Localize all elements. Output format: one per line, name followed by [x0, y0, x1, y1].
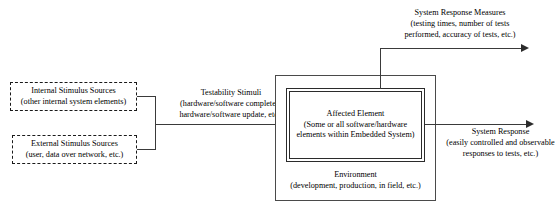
system-response-measures-label: System Response Measures (testing times,… [390, 8, 530, 40]
system-response-line1: System Response [444, 127, 557, 138]
testability-stimuli-line3: hardware/software update, etc.) [170, 110, 292, 121]
affected-element-line3: elements within Embedded System) [296, 130, 414, 141]
testability-context-diagram: Internal Stimulus Sources (other interna… [0, 0, 557, 219]
source-merge-vertical-line [155, 96, 156, 150]
environment-label: Environment (development, production, in… [277, 170, 434, 191]
environment-line2: (development, production, in field, etc.… [277, 181, 434, 192]
response-measures-horizontal-line [380, 48, 523, 49]
testability-stimuli-line1: Testability Stimuli [170, 88, 292, 99]
internal-stimulus-sources-box: Internal Stimulus Sources (other interna… [10, 82, 137, 111]
system-response-measures-line3: performed, accuracy of tests, etc.) [390, 30, 530, 41]
system-response-measures-line1: System Response Measures [390, 8, 530, 19]
response-measures-arrowhead [521, 44, 529, 52]
external-stimulus-sources-line1: External Stimulus Sources [31, 139, 118, 150]
internal-source-connector-line [137, 96, 156, 97]
external-stimulus-sources-line2: (user, data over network, etc.) [26, 150, 124, 161]
testability-stimuli-line2: (hardware/software completed, [170, 99, 292, 110]
testability-stimuli-label: Testability Stimuli (hardware/software c… [170, 88, 292, 120]
environment-line1: Environment [277, 170, 434, 181]
affected-element-line1: Affected Element [327, 109, 385, 120]
system-response-label: System Response (easily controlled and o… [444, 127, 557, 159]
testability-stimuli-line [155, 124, 280, 125]
system-response-line [425, 124, 528, 125]
external-source-connector-line [137, 149, 156, 150]
system-response-line2: (easily controlled and observable [444, 138, 557, 149]
external-stimulus-sources-box: External Stimulus Sources (user, data ov… [12, 135, 137, 164]
system-response-line3: responses to tests, etc.) [444, 149, 557, 160]
affected-element-inner-border: Affected Element (Some or all software/h… [289, 91, 422, 159]
affected-element-line2: (Some or all software/hardware [304, 120, 407, 131]
affected-element-box: Affected Element (Some or all software/h… [286, 88, 425, 162]
response-measures-vertical-line [380, 48, 381, 89]
system-response-measures-line2: (testing times, number of tests [390, 19, 530, 30]
internal-stimulus-sources-line1: Internal Stimulus Sources [31, 86, 116, 97]
internal-stimulus-sources-line2: (other internal system elements) [21, 97, 126, 108]
